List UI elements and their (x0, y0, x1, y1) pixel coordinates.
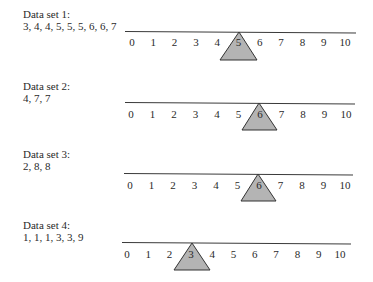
tick-label: 0 (127, 179, 133, 191)
tick-label: 10 (335, 248, 347, 260)
tick-label: 2 (172, 36, 178, 48)
tick-label: 4 (214, 36, 220, 48)
tick-label: 4 (209, 248, 215, 260)
tick-label: 5 (235, 179, 241, 191)
balance-diagrams: 012345678910 012345678910 012345678910 0… (0, 0, 373, 282)
tick-label: 4 (213, 179, 219, 191)
tick-label: 7 (278, 179, 284, 191)
tick-label: 9 (322, 108, 328, 120)
tick-label: 2 (171, 108, 177, 120)
tick-labels: 012345678910 (129, 36, 351, 48)
tick-label: 7 (278, 36, 284, 48)
tick-label: 1 (146, 248, 152, 260)
tick-label: 0 (128, 108, 134, 120)
tick-label: 5 (236, 108, 242, 120)
beam-line (122, 243, 351, 245)
balance-beam-1: 012345678910 (125, 32, 356, 61)
tick-label: 2 (167, 248, 173, 260)
tick-label: 7 (273, 248, 279, 260)
tick-label: 9 (316, 248, 322, 260)
balance-beam-4: 012345678910 (122, 243, 351, 271)
tick-label: 1 (150, 108, 156, 120)
tick-label: 0 (129, 36, 135, 48)
tick-label: 6 (257, 108, 263, 120)
tick-label: 6 (252, 248, 258, 260)
balance-beam-3: 012345678910 (124, 174, 353, 202)
tick-label: 8 (300, 36, 306, 48)
tick-label: 3 (192, 179, 198, 191)
tick-label: 10 (341, 108, 353, 120)
tick-label: 4 (214, 108, 220, 120)
tick-label: 2 (170, 179, 176, 191)
tick-label: 3 (193, 36, 199, 48)
beam-line (125, 32, 356, 34)
tick-label: 5 (231, 248, 237, 260)
tick-label: 6 (256, 179, 262, 191)
tick-label: 1 (149, 179, 155, 191)
tick-label: 9 (321, 179, 327, 191)
tick-labels: 012345678910 (127, 179, 351, 191)
tick-labels: 012345678910 (128, 108, 352, 120)
balance-beam-2: 012345678910 (125, 103, 355, 131)
tick-label: 7 (279, 108, 285, 120)
tick-label: 8 (299, 179, 305, 191)
tick-label: 5 (236, 36, 242, 48)
tick-label: 3 (188, 248, 194, 260)
tick-label: 9 (321, 36, 327, 48)
beam-line (125, 103, 355, 105)
tick-label: 8 (295, 248, 301, 260)
tick-label: 1 (151, 36, 157, 48)
beam-line (124, 174, 353, 176)
tick-label: 10 (340, 36, 352, 48)
tick-label: 6 (257, 36, 263, 48)
tick-labels: 012345678910 (124, 248, 346, 260)
tick-label: 3 (193, 108, 199, 120)
tick-label: 10 (340, 179, 352, 191)
tick-label: 0 (124, 248, 130, 260)
tick-label: 8 (300, 108, 306, 120)
